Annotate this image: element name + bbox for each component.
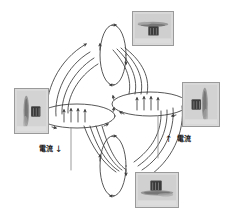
field-line-right-upper-1 — [113, 50, 130, 94]
inset-top-right — [132, 11, 174, 46]
field-line-left-upper-3 — [62, 58, 94, 114]
field-line-right-lower-3 — [138, 110, 167, 166]
field-line-left-upper-4 — [68, 64, 98, 113]
right-coil-arrow-lowright — [172, 115, 176, 116]
current-label-left-text: 電流 — [39, 146, 53, 153]
inset-bottom-right — [135, 172, 179, 208]
current-label-left: 電流 ↓ — [39, 145, 63, 154]
field-line-left-upper-2 — [56, 52, 90, 116]
current-arrow-up-icon: ↑ — [165, 135, 173, 144]
right-coil-ellipse — [112, 92, 188, 116]
iron-filings-photo-horizontal-bottom — [136, 173, 178, 207]
current-label-right: 電流 ↑ — [165, 135, 191, 144]
current-label-right-text: 電流 — [177, 136, 191, 143]
iron-filings-photo-vertical-right — [183, 83, 219, 126]
inset-right — [182, 82, 220, 127]
left-coil-arrow-lowleft — [52, 127, 56, 128]
iron-filings-photo-vertical-left — [15, 89, 48, 133]
right-coil-arrow-upleft — [113, 96, 114, 100]
field-line-group — [39, 25, 188, 196]
left-coil-ellipse — [39, 104, 115, 128]
left-coil-arrow-upright — [113, 108, 114, 112]
field-line-right-lower-4 — [134, 111, 161, 162]
iron-filings-photo-horizontal — [133, 12, 173, 45]
current-arrow-down-icon: ↓ — [55, 145, 63, 154]
figure-canvas: 電流 ↓ 電流 ↑ — [0, 0, 228, 218]
inset-left — [14, 88, 49, 134]
